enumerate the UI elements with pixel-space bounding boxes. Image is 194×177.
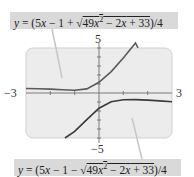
x-min-label: −3 (4, 87, 17, 99)
y-max-label: 5 (95, 33, 101, 45)
y-min-label: −5 (91, 143, 104, 155)
x-max-label: 3 (176, 87, 182, 99)
